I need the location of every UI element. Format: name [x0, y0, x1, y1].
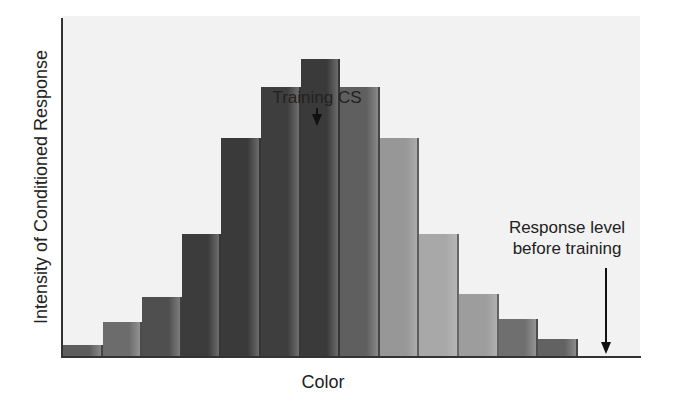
- training-cs-label: Training CS: [272, 87, 361, 108]
- x-axis-label: Color: [301, 372, 344, 393]
- x-axis-line: [61, 356, 641, 358]
- bar-4: [182, 234, 222, 356]
- baseline-label-line1: Response level: [509, 217, 625, 238]
- y-axis-label: Intensity of Conditioned Response: [31, 50, 52, 324]
- baseline-label-line2: before training: [509, 238, 625, 259]
- bar-1: [63, 345, 103, 356]
- bar-6: [261, 87, 301, 356]
- bar-2: [103, 322, 143, 356]
- bar-10: [419, 234, 459, 356]
- bar-5: [221, 138, 261, 356]
- training-cs-arrow-icon: [312, 114, 322, 126]
- bar-11: [459, 294, 499, 356]
- baseline-arrow-shaft: [605, 268, 607, 344]
- baseline-arrow-icon: [601, 342, 611, 354]
- bar-13: [538, 339, 578, 356]
- bar-9: [380, 138, 420, 356]
- bar-12: [499, 319, 539, 356]
- baseline-annotation: Response level before training: [509, 217, 625, 259]
- bar-3: [142, 297, 182, 357]
- y-axis-line: [61, 18, 63, 358]
- bar-8: [340, 87, 380, 356]
